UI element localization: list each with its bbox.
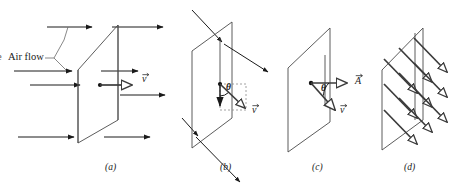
leader-tip-upper xyxy=(64,27,68,40)
panel-d-graphics xyxy=(382,28,447,150)
truncated-left-glyph: e xyxy=(0,52,2,63)
loop-outline xyxy=(78,25,118,143)
panel-b-flow-back xyxy=(182,10,222,136)
velocity-arrow xyxy=(220,84,245,108)
panel-caption-b: (b) xyxy=(220,163,231,173)
panel-a-velocity xyxy=(98,83,132,87)
panel-caption-a: (a) xyxy=(105,163,116,173)
vector-accent-arrow xyxy=(252,103,259,108)
leader-branch-upper xyxy=(54,40,64,58)
panel-c-graphics xyxy=(288,28,347,152)
panel-a-velocity-label: v xyxy=(142,74,146,84)
panel-c-velocity-label: v xyxy=(340,105,344,115)
air-flow-label: Air flow xyxy=(8,52,44,63)
flow-arrow xyxy=(182,118,198,136)
panel-b-theta-label: θ xyxy=(226,83,231,93)
flow-arrow xyxy=(224,44,268,72)
panel-d-velocity-field xyxy=(384,38,447,144)
velocity-field-arrow xyxy=(384,110,417,144)
leader-branch-lower xyxy=(54,58,66,70)
panel-a-leader xyxy=(45,27,68,70)
panel-c-area-label: A xyxy=(355,76,361,86)
panel-b-velocity-label: v xyxy=(252,105,256,115)
flow-arrow xyxy=(192,10,222,42)
angle-arc xyxy=(220,93,229,97)
panel-a-loop xyxy=(78,25,118,143)
panel-c-theta-label: θ xyxy=(321,84,326,94)
vector-accent-arrow xyxy=(340,103,347,108)
panel-a-graphics xyxy=(14,25,165,143)
panel-caption-d: (d) xyxy=(404,163,415,173)
physics-figure: Air flow v θ v θ A xyxy=(0,0,456,190)
vector-accent-arrow xyxy=(142,72,149,77)
flow-arrow xyxy=(196,137,240,182)
vector-accent-arrow xyxy=(355,73,362,78)
panel-caption-c: (c) xyxy=(312,163,323,173)
panel-b-graphics xyxy=(182,10,268,182)
